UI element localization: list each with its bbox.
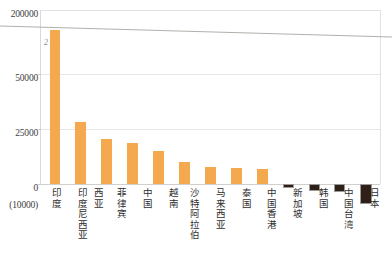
x-tick-label-5: 越南 (165, 188, 178, 209)
bar-8 (257, 169, 268, 184)
x-tick-label-1: 印度尼西亚 (74, 188, 87, 241)
bar-6 (205, 167, 216, 184)
bar-value-annotation: 2 (44, 38, 48, 47)
bar-1 (75, 122, 86, 184)
x-tick-label-2: 西亚 (90, 188, 103, 209)
x-tick-label-9: 中国香港 (263, 188, 276, 230)
x-tick-label-10: 新加坡 (289, 188, 302, 220)
bar-5 (179, 162, 190, 184)
bar-4 (153, 151, 164, 184)
x-tick-label-4: 中国 (139, 188, 152, 209)
x-tick-label-11: 韩国 (315, 188, 328, 209)
x-tick-label-13: 日本 (366, 188, 379, 209)
x-tick-label-3: 菲律宾 (113, 188, 126, 220)
bar-0 (50, 30, 60, 184)
x-tick-label-6: 沙特阿拉伯 (186, 188, 199, 241)
x-tick-label-7: 马来西亚 (212, 188, 225, 230)
x-tick-label-8: 泰国 (238, 188, 251, 209)
x-tick-label-12: 中国台湾 (340, 188, 353, 230)
bar-7 (231, 168, 242, 184)
bar-3 (127, 143, 138, 184)
bar-2 (101, 139, 112, 184)
x-axis: 印度 印度尼西亚 西亚 菲律宾 中国 越南 沙特阿拉伯 马来西亚 泰国 中国香港… (40, 188, 381, 258)
chart-container: 200000 50000 25000 0 (10000) 2 (0, 0, 392, 258)
x-tick-label-0: 印度 (48, 188, 61, 209)
